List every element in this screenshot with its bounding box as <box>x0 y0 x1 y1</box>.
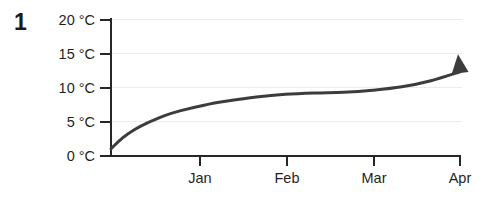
x-axis-tick-labels: Jan Feb Mar Apr <box>188 170 471 186</box>
x-tick-label-feb: Feb <box>275 170 300 186</box>
y-tick-label-15: 15 °C <box>59 46 95 62</box>
y-axis-group <box>100 18 111 156</box>
y-tick-label-0: 0 °C <box>67 148 95 164</box>
y-tick-label-5: 5 °C <box>67 114 95 130</box>
temperature-curve <box>111 72 460 149</box>
figure-container: 1 20 °C 15 °C 10 °C 5 °C 0 °C <box>0 0 500 198</box>
curve-arrow-head-icon <box>452 54 469 74</box>
series-temperature <box>111 54 469 149</box>
y-tick-label-20: 20 °C <box>59 12 95 28</box>
x-tick-label-apr: Apr <box>449 170 472 186</box>
temperature-line-chart: 20 °C 15 °C 10 °C 5 °C 0 °C Jan Feb Mar … <box>0 0 500 198</box>
y-axis-tick-labels: 20 °C 15 °C 10 °C 5 °C 0 °C <box>59 12 95 164</box>
x-tick-label-jan: Jan <box>188 170 211 186</box>
x-axis-group <box>110 156 461 167</box>
x-tick-label-mar: Mar <box>362 170 387 186</box>
y-tick-label-10: 10 °C <box>59 80 95 96</box>
gridlines-group <box>111 20 462 156</box>
